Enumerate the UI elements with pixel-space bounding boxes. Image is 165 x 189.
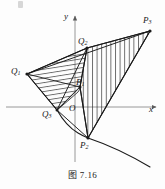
parabola-arc bbox=[57, 110, 150, 167]
point-label-P2: P2 bbox=[80, 141, 89, 150]
figure-caption: 图 7.16 bbox=[0, 168, 165, 181]
figure-container: y x O P1 P2 P3 Q1 Q2 Q3 图 7.16 bbox=[0, 0, 165, 189]
point-label-P1: P1 bbox=[76, 78, 85, 87]
point-Q2 bbox=[85, 46, 88, 49]
point-label-P3: P3 bbox=[143, 16, 152, 25]
x-axis-label: x bbox=[149, 105, 153, 114]
figure-drawing bbox=[0, 0, 165, 189]
point-P2 bbox=[86, 136, 89, 139]
y-axis-label: y bbox=[64, 12, 68, 21]
point-Q1 bbox=[25, 72, 28, 75]
origin-label: O bbox=[69, 104, 76, 113]
point-Q3 bbox=[56, 109, 59, 112]
point-P3 bbox=[148, 29, 151, 32]
point-label-Q3: Q3 bbox=[42, 110, 52, 119]
point-label-Q1: Q1 bbox=[11, 67, 21, 76]
point-label-Q2: Q2 bbox=[78, 37, 88, 46]
chord-Q3-P2 bbox=[57, 110, 88, 138]
